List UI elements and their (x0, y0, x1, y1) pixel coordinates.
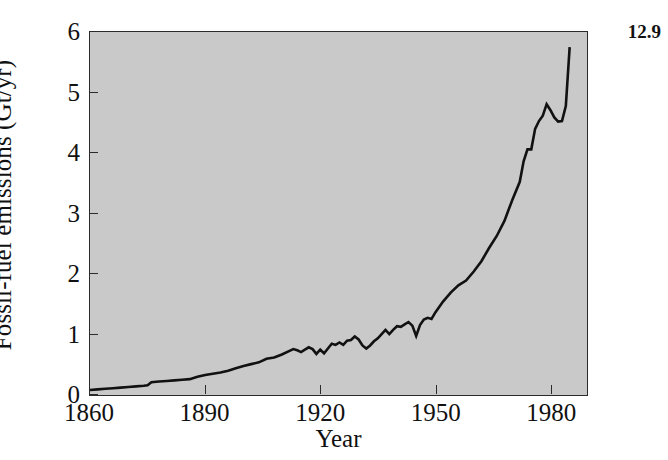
series-line (90, 47, 570, 390)
y-tick-label: 4 (0, 140, 80, 165)
x-axis-title: Year (89, 425, 588, 453)
y-tick-label: 3 (0, 200, 80, 225)
x-tick-label: 1980 (526, 400, 576, 425)
x-tick-label: 1860 (64, 400, 114, 425)
data-line-series (90, 32, 587, 395)
x-tick-mark (89, 385, 90, 394)
chart-figure: Fossil-fuel emissions (Gt/yr) Year 01234… (0, 0, 668, 460)
y-tick-mark (89, 273, 98, 274)
x-tick-mark (205, 385, 206, 394)
y-tick-label: 1 (0, 321, 80, 346)
y-tick-mark (89, 152, 98, 153)
y-tick-mark (89, 334, 98, 335)
y-tick-mark (89, 31, 98, 32)
y-tick-label: 2 (0, 261, 80, 286)
x-tick-mark (320, 385, 321, 394)
y-tick-mark (89, 394, 98, 395)
x-tick-label: 1890 (180, 400, 230, 425)
corner-annotation-label: 12.9 (628, 21, 661, 43)
y-tick-mark (89, 213, 98, 214)
y-tick-mark (89, 92, 98, 93)
x-tick-label: 1920 (295, 400, 345, 425)
y-tick-label: 5 (0, 79, 80, 104)
y-tick-label: 6 (0, 19, 80, 44)
x-tick-label: 1950 (411, 400, 461, 425)
x-tick-mark (551, 385, 552, 394)
plot-area (89, 31, 588, 396)
x-tick-mark (436, 385, 437, 394)
